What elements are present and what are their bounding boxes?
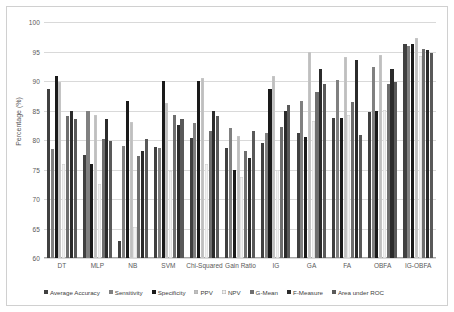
gridline — [44, 258, 436, 259]
bar — [180, 119, 183, 258]
plot-area — [44, 22, 436, 258]
bar — [407, 46, 410, 258]
x-tick-label: DT — [44, 260, 80, 274]
bar — [94, 115, 97, 258]
legend-item[interactable]: Sensitivity — [109, 289, 143, 296]
bar — [390, 69, 393, 258]
legend-item[interactable]: Area under ROC — [332, 289, 384, 296]
bar — [336, 80, 339, 258]
bar — [244, 151, 247, 258]
bar — [201, 78, 204, 258]
bar — [165, 103, 168, 258]
y-tick-label: 60 — [33, 255, 40, 262]
bar — [197, 81, 200, 258]
bar-group — [258, 22, 294, 258]
legend-label: Average Accuracy — [50, 289, 100, 296]
legend-item[interactable]: NPV — [222, 289, 241, 296]
bar — [340, 118, 343, 258]
bar — [122, 146, 125, 258]
bar — [304, 137, 307, 258]
bar — [248, 158, 251, 258]
bar — [252, 131, 255, 258]
x-tick-label: IG — [258, 260, 294, 274]
bar — [102, 139, 105, 258]
bar — [261, 143, 264, 258]
bar — [379, 55, 382, 258]
bar — [137, 156, 140, 258]
bar — [312, 121, 315, 258]
x-tick-label: Gain Ratio — [223, 260, 259, 274]
bar — [74, 119, 77, 258]
bar — [422, 49, 425, 258]
bar — [212, 111, 215, 259]
bar — [426, 50, 429, 258]
y-tick-label: 70 — [33, 196, 40, 203]
y-tick-label: 75 — [33, 166, 40, 173]
bar — [209, 131, 212, 258]
legend-swatch-icon — [194, 290, 198, 294]
bar — [154, 147, 157, 258]
legend-label: Specificity — [158, 289, 186, 296]
bar — [190, 138, 193, 258]
legend-label: Sensitivity — [115, 289, 143, 296]
bar — [276, 170, 279, 258]
x-tick-label: OBFA — [365, 260, 401, 274]
legend-item[interactable]: PPV — [194, 289, 212, 296]
bar-group — [44, 22, 80, 258]
bar — [62, 164, 65, 258]
bar — [83, 155, 86, 258]
bar — [126, 101, 129, 258]
bar — [240, 177, 243, 258]
bar-group — [400, 22, 436, 258]
bar-group — [293, 22, 329, 258]
legend-item[interactable]: Specificity — [152, 289, 186, 296]
x-tick-label: SVM — [151, 260, 187, 274]
legend-swatch-icon — [250, 290, 254, 294]
chart-container: Percentage (%) 1009590858075706560 DTMLP… — [0, 0, 454, 312]
bar — [332, 118, 335, 258]
bar — [323, 84, 326, 258]
bar — [355, 60, 358, 258]
legend-swatch-icon — [287, 290, 291, 294]
bar — [394, 82, 397, 258]
x-tick-label: FA — [329, 260, 365, 274]
legend-item[interactable]: F-Measure — [287, 289, 323, 296]
x-tick-label: IG-OBFA — [400, 260, 436, 274]
legend-item[interactable]: Average Accuracy — [44, 289, 100, 296]
bar — [359, 135, 362, 258]
bar — [98, 184, 101, 258]
legend-item[interactable]: G-Mean — [250, 289, 278, 296]
bar — [70, 111, 73, 258]
legend-swatch-icon — [109, 290, 113, 294]
bar — [419, 56, 422, 258]
legend-label: G-Mean — [256, 289, 278, 296]
bar — [297, 133, 300, 258]
bar — [66, 116, 69, 258]
bar — [229, 128, 232, 258]
bar — [351, 102, 354, 258]
bar — [216, 116, 219, 258]
legend-swatch-icon — [44, 290, 48, 294]
bar — [141, 151, 144, 258]
bar — [280, 127, 283, 258]
bar — [387, 84, 390, 258]
bar — [51, 149, 54, 258]
bar — [118, 241, 121, 258]
bar — [347, 115, 350, 258]
bar — [308, 52, 311, 259]
bar — [300, 101, 303, 258]
bar — [287, 105, 290, 258]
bar — [90, 164, 93, 258]
bar — [105, 119, 108, 258]
bar-group — [365, 22, 401, 258]
y-tick-label: 65 — [33, 225, 40, 232]
y-tick-label: 100 — [29, 19, 40, 26]
legend-label: Area under ROC — [338, 289, 384, 296]
bar-group — [222, 22, 258, 258]
chart-legend: Average AccuracySensitivitySpecificityPP… — [44, 286, 444, 298]
bar — [383, 110, 386, 258]
bar — [411, 44, 414, 258]
y-axis-ticks: 1009590858075706560 — [0, 22, 44, 258]
bar — [344, 57, 347, 258]
bar — [284, 111, 287, 259]
